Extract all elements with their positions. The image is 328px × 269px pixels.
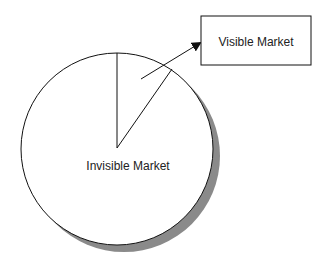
market-diagram: Visible Market Invisible Market	[0, 0, 328, 269]
pie-chart	[21, 53, 213, 245]
visible-market-label: Visible Market	[218, 35, 294, 49]
invisible-market-label: Invisible Market	[86, 159, 170, 173]
